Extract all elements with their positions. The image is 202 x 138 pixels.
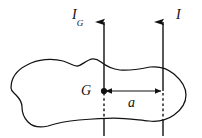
- centroid-label: G: [81, 84, 91, 98]
- distance-label: a: [128, 96, 135, 110]
- centroidal-axis-label-symbol: I: [72, 7, 77, 22]
- diagram-canvas: [0, 0, 202, 138]
- centroidal-axis-label: IG: [72, 8, 83, 25]
- parallel-axis-theorem-figure: IG I G a: [0, 0, 202, 138]
- parallel-axis-label: I: [176, 8, 181, 22]
- body-outline: [11, 59, 186, 127]
- centroidal-axis-label-subscript: G: [77, 18, 84, 28]
- centroid-marker: [101, 88, 107, 94]
